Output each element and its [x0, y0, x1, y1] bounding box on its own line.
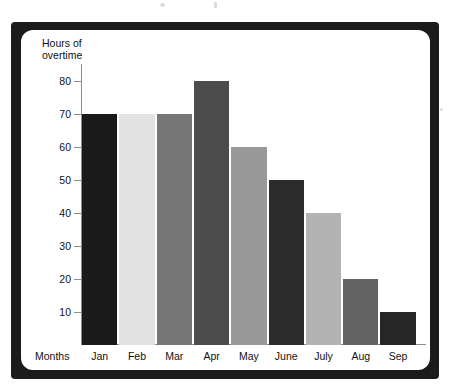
bar-july — [306, 213, 341, 345]
bar-may — [231, 147, 266, 345]
y-axis-tick-label: 80 — [43, 75, 71, 87]
bar-feb — [119, 114, 154, 345]
x-axis-tick-label: May — [239, 350, 259, 362]
y-axis-tick-mark — [74, 180, 82, 181]
bar-apr — [194, 81, 229, 345]
x-axis-tick-label: July — [314, 350, 333, 362]
y-axis-tick-label: 70 — [43, 108, 71, 120]
x-axis-tick-label: June — [275, 350, 298, 362]
x-axis-tick-label: Aug — [351, 350, 370, 362]
x-axis-tick-label: Mar — [165, 350, 183, 362]
y-axis-tick-mark — [74, 312, 82, 313]
y-axis-tick-mark — [74, 114, 82, 115]
y-axis-tick-mark — [74, 246, 82, 247]
chart-frame-border: Hours of overtime 1020304050607080 Month… — [11, 22, 439, 379]
chart-canvas: Hours of overtime 1020304050607080 Month… — [21, 30, 430, 370]
x-axis-tick-label: Sep — [389, 350, 408, 362]
y-axis-tick-label: 20 — [43, 273, 71, 285]
bar-aug — [343, 279, 378, 345]
chart-page: Hours of overtime 1020304050607080 Month… — [0, 0, 449, 391]
x-axis-tick-label: Apr — [203, 350, 219, 362]
scan-artifact — [440, 108, 443, 111]
bar-series — [82, 64, 426, 345]
y-axis-tick-label: 50 — [43, 174, 71, 186]
x-axis-tick-label: Feb — [128, 350, 146, 362]
y-axis-tick-mark — [74, 279, 82, 280]
y-axis-tick-label: 10 — [43, 306, 71, 318]
scan-artifact — [214, 2, 217, 8]
y-axis-tick-mark — [74, 213, 82, 214]
y-axis-tick-label: 30 — [43, 240, 71, 252]
y-axis-tick-mark — [74, 147, 82, 148]
bar-jan — [82, 114, 117, 345]
plot-area: Hours of overtime 1020304050607080 Month… — [21, 30, 430, 370]
bar-june — [269, 180, 304, 345]
scan-artifact — [160, 3, 165, 7]
bar-sep — [380, 312, 415, 345]
x-axis-tick-label: Jan — [91, 350, 108, 362]
bar-mar — [157, 114, 192, 345]
y-axis-tick-mark — [74, 81, 82, 82]
x-axis-title: Months — [35, 350, 69, 362]
y-axis-tick-label: 60 — [43, 141, 71, 153]
y-axis-tick-label: 40 — [43, 207, 71, 219]
y-axis-title: Hours of overtime — [42, 38, 82, 61]
